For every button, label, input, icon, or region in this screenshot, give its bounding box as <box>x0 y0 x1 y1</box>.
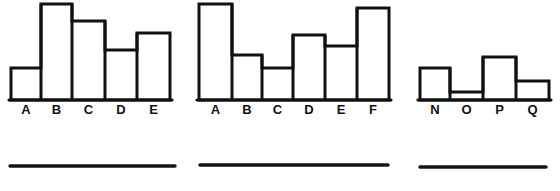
x-axis-label-e: E <box>149 102 158 117</box>
histogram-left-svg: ABCDE <box>0 0 190 191</box>
x-axis-tick-labels-left: ABCDE <box>21 102 158 117</box>
x-axis-label-q: Q <box>527 102 537 117</box>
x-axis-label-f: F <box>369 102 377 117</box>
x-axis-label-n: N <box>430 102 439 117</box>
x-axis-label-p: P <box>495 102 504 117</box>
x-axis-label-d: D <box>304 102 313 117</box>
bars-group-right <box>420 57 549 100</box>
bar-outline-path-left <box>11 4 170 100</box>
x-axis-label-b: B <box>242 102 251 117</box>
histogram-middle-svg: ABCDEF <box>190 0 400 191</box>
chart-panel-middle: ABCDEF <box>190 0 400 191</box>
x-axis-tick-labels-middle: ABCDEF <box>211 102 377 117</box>
bars-group-middle <box>199 4 389 100</box>
x-axis-label-a: A <box>21 102 31 117</box>
x-axis-label-o: O <box>461 102 471 117</box>
x-axis-label-c: C <box>273 102 283 117</box>
x-axis-label-e: E <box>337 102 346 117</box>
x-axis-label-d: D <box>116 102 125 117</box>
histogram-figure-set: ABCDE ABCDEF NOPQ <box>0 0 560 191</box>
histogram-right-svg: NOPQ <box>400 0 560 191</box>
x-axis-tick-labels-right: NOPQ <box>430 102 537 117</box>
bars-group-left <box>11 4 170 100</box>
chart-panel-left: ABCDE <box>0 0 190 191</box>
x-axis-label-c: C <box>84 102 94 117</box>
chart-panel-right: NOPQ <box>400 0 560 191</box>
x-axis-label-a: A <box>211 102 221 117</box>
x-axis-label-b: B <box>52 102 61 117</box>
